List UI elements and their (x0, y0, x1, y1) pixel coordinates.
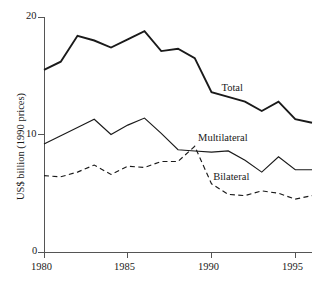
x-tick-label-1995: 1995 (282, 262, 303, 273)
y-tick-label-10: 10 (26, 129, 37, 140)
series-line-bilateral (44, 146, 312, 199)
axes-group (38, 17, 312, 258)
series-label-total: Total (222, 83, 243, 94)
series-line-multilateral (44, 118, 312, 172)
y-tick-label-20: 20 (26, 11, 37, 22)
series-group (44, 31, 312, 199)
plot-area (0, 0, 320, 286)
series-label-bilateral: Bilateral (213, 172, 249, 183)
x-tick-label-1985: 1985 (114, 262, 135, 273)
series-line-total (44, 31, 312, 123)
x-tick-label-1990: 1990 (198, 262, 219, 273)
line-chart: 20 10 0 1980 1985 1990 1995 US$ billion … (0, 0, 320, 286)
y-tick-label-0: 0 (32, 246, 37, 257)
y-axis-label: US$ billion (1990 prices) (16, 93, 27, 200)
series-label-multilateral: Multilateral (198, 133, 248, 144)
x-tick-label-1980: 1980 (31, 262, 52, 273)
